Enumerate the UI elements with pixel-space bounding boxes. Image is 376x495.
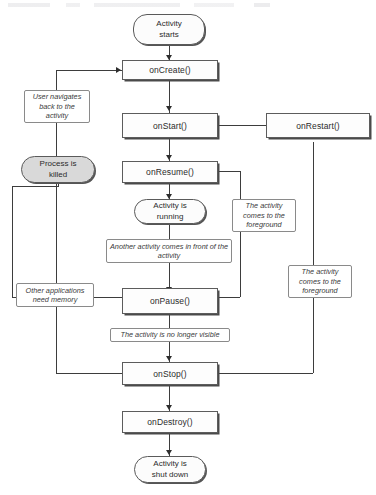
node-onresume: onResume(): [122, 161, 218, 183]
node-process-killed-label: Process is killed: [40, 159, 77, 179]
node-activity-running-label: Activity is running: [153, 201, 186, 221]
label-comes-to-foreground-upper: The activity comes to the foreground: [232, 199, 296, 232]
node-onrestart-label: onRestart(): [296, 121, 340, 131]
node-process-killed: Process is killed: [21, 156, 95, 183]
node-activity-shut-down: Activity is shut down: [134, 456, 206, 483]
node-oncreate-label: onCreate(): [149, 65, 191, 75]
arrowhead-onstop-to-ondestroy: [166, 405, 172, 410]
scan-artifact-strip: [8, 3, 308, 7]
node-ondestroy: onDestroy(): [122, 411, 218, 433]
edge-onstop-to-left-rail: [56, 373, 122, 374]
node-activity-shut-down-label: Activity is shut down: [152, 459, 188, 479]
label-user-navigates-back: User navigates back to the activity: [24, 90, 90, 123]
arrowhead-ondestroy-to-shutdown: [166, 450, 172, 455]
edge-killed-rail-vertical: [12, 186, 13, 297]
edge-onrestart-to-onstart: [218, 125, 266, 126]
node-onpause-label: onPause(): [150, 296, 190, 306]
node-activity-starts-label: Activity starts: [156, 19, 181, 39]
label-another-activity-in-front-text: Another activity comes in front of the a…: [109, 242, 229, 261]
label-other-apps-need-memory: Other applications need memory: [16, 283, 94, 307]
edge-killed-rail-horizontal: [12, 186, 58, 187]
arrowhead-onstart-to-onresume: [166, 155, 172, 160]
edge-outer-rail-vertical: [313, 142, 314, 373]
edge-inner-rail-vertical: [240, 171, 241, 297]
label-no-longer-visible: The activity is no longer visible: [110, 328, 230, 342]
node-onpause: onPause(): [122, 288, 218, 314]
label-other-apps-need-memory-text: Other applications need memory: [19, 286, 91, 305]
arrowhead-onpause-to-onstop: [166, 356, 172, 361]
activity-lifecycle-diagram: Activity starts onCreate() onStart() onR…: [0, 0, 376, 495]
arrowhead-left-rail-to-oncreate: [116, 67, 121, 73]
node-onstop: onStop(): [122, 362, 218, 385]
label-comes-to-foreground-lower: The activity comes to the foreground: [288, 265, 352, 298]
edge-onstop-to-outer-rail: [218, 373, 313, 374]
label-user-navigates-back-text: User navigates back to the activity: [27, 92, 87, 120]
arrowhead-oncreate-to-onstart: [166, 106, 172, 111]
node-ondestroy-label: onDestroy(): [147, 417, 193, 427]
label-comes-to-foreground-upper-text: The activity comes to the foreground: [235, 201, 293, 229]
node-onstop-label: onStop(): [153, 369, 186, 379]
node-onrestart: onRestart(): [266, 113, 370, 138]
edge-left-rail-to-oncreate: [56, 70, 122, 71]
edge-onpause-to-inner-rail: [218, 297, 240, 298]
node-onresume-label: onResume(): [146, 167, 194, 177]
node-activity-starts: Activity starts: [133, 14, 205, 45]
label-no-longer-visible-text: The activity is no longer visible: [121, 330, 220, 339]
edge-inner-rail-to-onresume: [218, 171, 240, 172]
node-onstart: onStart(): [122, 113, 218, 138]
node-onstart-label: onStart(): [153, 121, 187, 131]
label-comes-to-foreground-lower-text: The activity comes to the foreground: [291, 267, 349, 295]
node-activity-running: Activity is running: [134, 199, 206, 224]
node-oncreate: onCreate(): [122, 60, 218, 80]
label-another-activity-in-front: Another activity comes in front of the a…: [106, 239, 232, 263]
